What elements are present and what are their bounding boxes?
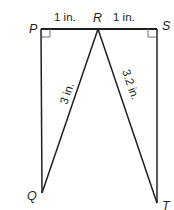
point-label-r: R (93, 11, 102, 25)
segment-rt (98, 29, 157, 203)
diagram-svg: P R S Q T 1 in. 1 in. 3 in. 3.2 in. (0, 0, 174, 210)
geometry-diagram: P R S Q T 1 in. 1 in. 3 in. 3.2 in. (0, 0, 174, 210)
point-label-t: T (162, 199, 171, 210)
point-label-s: S (162, 19, 171, 33)
point-label-q: Q (27, 189, 37, 203)
length-label-rs: 1 in. (113, 11, 135, 23)
right-angle-mark-s (148, 29, 156, 37)
length-label-rt: 3.2 in. (120, 68, 142, 102)
segment-pq (41, 29, 42, 193)
length-label-pr: 1 in. (54, 11, 76, 23)
segment-rq (42, 29, 98, 193)
point-label-p: P (29, 22, 38, 36)
right-angle-mark-p (42, 29, 50, 37)
